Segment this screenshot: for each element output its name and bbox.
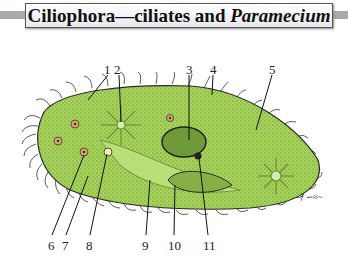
micronucleus	[195, 153, 202, 160]
label-11: 11	[203, 238, 216, 254]
label-10: 10	[168, 238, 181, 254]
label-9: 9	[142, 238, 149, 254]
label-5: 5	[269, 62, 276, 78]
label-1: 1	[104, 62, 111, 78]
paramecium-diagram: ƒ∽≈~	[0, 0, 348, 261]
label-8: 8	[86, 238, 93, 254]
label-3: 3	[186, 62, 193, 78]
macronucleus	[162, 127, 206, 157]
label-2: 2	[114, 62, 121, 78]
label-7: 7	[62, 238, 69, 254]
label-6: 6	[48, 238, 55, 254]
label-4: 4	[210, 62, 217, 78]
artist-signature: ƒ∽≈~	[300, 192, 322, 202]
